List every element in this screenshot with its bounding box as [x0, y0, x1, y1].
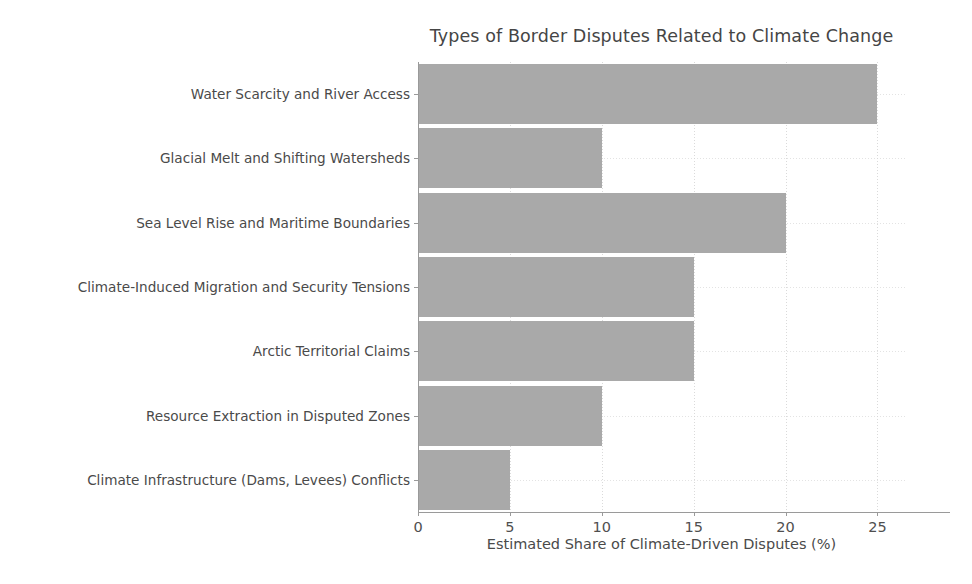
- plot-area: 0510152025: [418, 62, 905, 512]
- bar: [419, 450, 510, 510]
- bar: [419, 257, 694, 317]
- y-tick-mark: [414, 351, 418, 352]
- bar: [419, 386, 602, 446]
- y-tick-label: Glacial Melt and Shifting Watersheds: [10, 150, 410, 166]
- y-axis-spine: [418, 62, 419, 512]
- x-tick-mark: [418, 512, 419, 516]
- x-tick-mark: [510, 512, 511, 516]
- x-tick-label: 10: [572, 519, 632, 535]
- y-tick-mark: [414, 480, 418, 481]
- y-tick-label: Climate Infrastructure (Dams, Levees) Co…: [10, 472, 410, 488]
- y-tick-mark: [414, 287, 418, 288]
- x-axis-spine: [418, 512, 950, 513]
- bar: [419, 128, 602, 188]
- y-tick-label: Arctic Territorial Claims: [10, 343, 410, 359]
- chart-canvas: Types of Border Disputes Related to Clim…: [0, 0, 972, 584]
- y-tick-mark: [414, 94, 418, 95]
- vertical-gridline: [786, 62, 787, 512]
- vertical-gridline: [694, 62, 695, 512]
- y-tick-label: Resource Extraction in Disputed Zones: [10, 408, 410, 424]
- x-tick-label: 15: [664, 519, 724, 535]
- vertical-gridline: [877, 62, 878, 512]
- y-tick-label: Climate-Induced Migration and Security T…: [10, 279, 410, 295]
- y-axis-labels: Water Scarcity and River AccessGlacial M…: [8, 62, 410, 512]
- y-tick-mark: [414, 223, 418, 224]
- x-axis-title: Estimated Share of Climate-Driven Disput…: [418, 536, 905, 552]
- x-tick-mark: [786, 512, 787, 516]
- x-tick-label: 20: [756, 519, 816, 535]
- bar: [419, 64, 877, 124]
- bar: [419, 321, 694, 381]
- y-tick-mark: [414, 158, 418, 159]
- y-tick-label: Water Scarcity and River Access: [10, 86, 410, 102]
- x-tick-label: 0: [388, 519, 448, 535]
- x-tick-mark: [694, 512, 695, 516]
- x-tick-mark: [877, 512, 878, 516]
- bar: [419, 193, 786, 253]
- chart-title: Types of Border Disputes Related to Clim…: [418, 26, 905, 46]
- y-tick-mark: [414, 416, 418, 417]
- x-tick-label: 25: [847, 519, 907, 535]
- y-tick-label: Sea Level Rise and Maritime Boundaries: [10, 215, 410, 231]
- x-tick-label: 5: [480, 519, 540, 535]
- x-tick-mark: [602, 512, 603, 516]
